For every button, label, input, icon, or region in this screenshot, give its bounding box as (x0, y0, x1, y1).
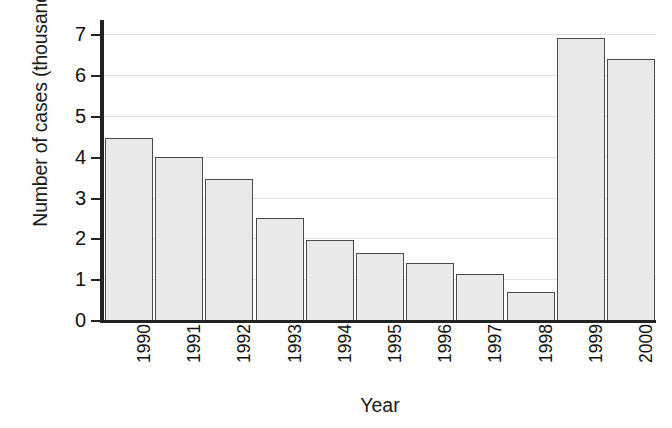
x-axis-title: Year (104, 394, 656, 417)
x-axis-tick-label: 1996 (437, 324, 455, 363)
x-axis-tick-labels: 1990199119921993199419951996199719981999… (104, 324, 656, 386)
y-axis-tick (91, 238, 100, 240)
x-axis-tick-label: 1992 (236, 324, 254, 363)
bar (356, 253, 404, 320)
bar (155, 157, 203, 320)
x-axis-tick-label: 1993 (287, 324, 305, 363)
x-axis (100, 320, 656, 323)
bar (557, 38, 605, 320)
bar (205, 179, 253, 320)
y-axis-title: Number of cases (thousands) (29, 0, 52, 252)
x-axis-tick-label: 1998 (538, 324, 556, 363)
y-axis-tick-label: 5 (75, 106, 86, 126)
y-axis-tick-label: 4 (75, 147, 86, 167)
plot-area (104, 20, 656, 320)
y-axis-tick (91, 75, 100, 77)
y-axis-tick-label: 3 (75, 188, 86, 208)
x-axis-tick-label: 1994 (337, 324, 355, 363)
bar (105, 138, 153, 320)
bar (306, 240, 354, 320)
x-axis-tick-label: 1999 (588, 324, 606, 363)
y-axis-tick (91, 157, 100, 159)
y-axis-tick (91, 198, 100, 200)
y-axis-tick-label: 7 (75, 24, 86, 44)
bar (607, 59, 655, 320)
y-axis: 01234567 (100, 20, 104, 321)
y-axis-tick-label: 2 (75, 228, 86, 248)
bar (456, 274, 504, 320)
y-axis-tick-label: 0 (75, 310, 86, 330)
x-axis-tick-label: 2000 (638, 324, 656, 363)
bar-series (104, 20, 656, 320)
bar-chart: Number of cases (thousands) 01234567 199… (0, 0, 672, 428)
bar (256, 218, 304, 320)
y-axis-tick (91, 34, 100, 36)
y-axis-tick-label: 1 (75, 269, 86, 289)
y-axis-tick (91, 279, 100, 281)
x-axis-tick-label: 1995 (387, 324, 405, 363)
y-axis-tick (91, 320, 100, 322)
x-axis-tick-label: 1991 (186, 324, 204, 363)
bar (507, 292, 555, 320)
y-axis-tick-label: 6 (75, 65, 86, 85)
x-axis-tick-label: 1997 (487, 324, 505, 363)
bar (406, 263, 454, 320)
y-axis-tick (91, 116, 100, 118)
x-axis-tick-label: 1990 (136, 324, 154, 363)
